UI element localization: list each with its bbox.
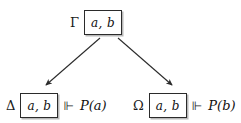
- node-left: Δ a, b ⊩ P(a): [6, 93, 107, 118]
- forces-icon-right: ⊩: [192, 100, 202, 112]
- node-right: Ω a, b ⊩ P(b): [133, 93, 236, 118]
- edge-root-to-left: [46, 38, 100, 85]
- formula-right: P(b): [208, 99, 235, 112]
- node-root: Γ a, b: [70, 10, 122, 35]
- forces-icon-left: ⊩: [63, 100, 73, 112]
- edge-root-to-right: [118, 38, 172, 85]
- sequent-box-right-text: a, b: [156, 100, 180, 112]
- diagram-canvas: Γ a, b Δ a, b ⊩ P(a) Ω a, b ⊩ P(b): [0, 0, 241, 123]
- sequent-box-right: a, b: [149, 93, 187, 118]
- sequent-box-left: a, b: [20, 93, 58, 118]
- context-label-delta: Δ: [6, 99, 15, 112]
- sequent-box-left-text: a, b: [27, 100, 51, 112]
- formula-left: P(a): [80, 99, 107, 112]
- sequent-box-root-text: a, b: [91, 17, 115, 29]
- context-label-gamma: Γ: [70, 16, 79, 29]
- sequent-box-root: a, b: [84, 10, 122, 35]
- context-label-omega: Ω: [133, 99, 144, 112]
